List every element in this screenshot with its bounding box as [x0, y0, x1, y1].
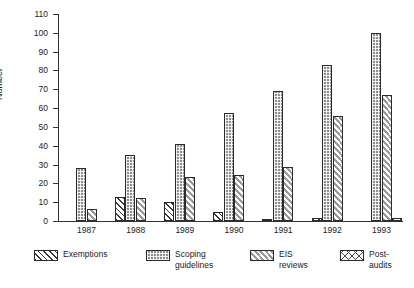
bar	[392, 218, 402, 221]
legend-label: EIS reviews	[279, 249, 308, 270]
x-tick-label: 1989	[165, 226, 205, 235]
legend-item[interactable]: Scoping guidelines	[146, 249, 213, 270]
y-tick-label: 80	[22, 66, 48, 75]
y-tick-label: 30	[22, 161, 48, 170]
x-tick-label: 1993	[361, 226, 401, 235]
y-tick-mark	[53, 221, 58, 222]
y-tick-label: 50	[22, 123, 48, 132]
y-tick-label: 0	[22, 217, 48, 226]
bar-chart: Number 1101009080706050403020100 1987198…	[0, 0, 414, 288]
legend-item[interactable]: Post-audits	[340, 249, 406, 270]
x-tick-label: 1988	[116, 226, 156, 235]
legend-label: Post-audits	[369, 249, 406, 270]
legend-label: Scoping guidelines	[175, 249, 213, 270]
y-tick-label: 40	[22, 142, 48, 151]
plot-area	[58, 14, 402, 221]
bar	[371, 33, 381, 221]
caption-strip	[0, 279, 414, 288]
y-tick-label: 60	[22, 104, 48, 113]
legend-label: Exemptions	[63, 249, 107, 260]
legend-swatch-icon	[146, 250, 170, 261]
y-tick-label: 90	[22, 48, 48, 57]
x-tick-label: 1987	[67, 226, 107, 235]
y-tick-label: 110	[22, 10, 48, 19]
x-tick-label: 1991	[263, 226, 303, 235]
legend-item[interactable]: Exemptions	[34, 249, 107, 261]
legend-item[interactable]: EIS reviews	[250, 249, 308, 270]
legend-swatch-icon	[34, 250, 58, 261]
chart-legend: ExemptionsScoping guidelinesEIS reviewsP…	[34, 249, 406, 279]
legend-swatch-icon	[340, 250, 364, 261]
legend-swatch-icon	[250, 250, 274, 261]
bar-group	[58, 14, 402, 221]
y-tick-label: 100	[22, 29, 48, 38]
x-tick-label: 1990	[214, 226, 254, 235]
y-tick-label: 70	[22, 85, 48, 94]
bar	[382, 95, 392, 221]
y-axis-title: Number	[0, 68, 4, 100]
x-tick-label: 1992	[312, 226, 352, 235]
x-axis-line	[58, 221, 403, 222]
y-tick-label: 20	[22, 179, 48, 188]
y-tick-label: 10	[22, 198, 48, 207]
